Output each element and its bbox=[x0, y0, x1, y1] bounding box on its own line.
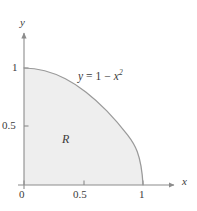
equation-equals: = bbox=[86, 70, 93, 82]
y-axis-label: y bbox=[20, 17, 25, 28]
x-tick-label-0-5: 0.5 bbox=[73, 189, 87, 200]
shaded-region-R bbox=[24, 68, 143, 185]
equation-one: 1 bbox=[96, 70, 102, 82]
y-tick-label-0-5: 0.5 bbox=[2, 120, 16, 131]
equation-exponent: 2 bbox=[119, 68, 123, 77]
curve-equation-label: y=1−x2 bbox=[78, 71, 123, 83]
x-axis-label: x bbox=[182, 176, 187, 187]
region-label-R: R bbox=[62, 133, 69, 145]
x-tick-label-0: 0 bbox=[19, 189, 25, 200]
equation-lhs: y bbox=[78, 70, 83, 82]
plot-canvas bbox=[0, 0, 197, 211]
x-tick-label-1: 1 bbox=[139, 189, 145, 200]
equation-minus: − bbox=[104, 70, 111, 82]
y-tick-label-1: 1 bbox=[12, 62, 18, 73]
figure-container: 0 0.5 1 1 0.5 x y R y=1−x2 bbox=[0, 0, 197, 211]
